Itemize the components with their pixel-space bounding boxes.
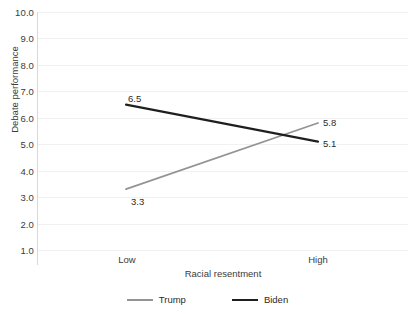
legend-item-biden[interactable]: Biden [232, 294, 288, 305]
data-label-biden-high: 5.1 [323, 138, 336, 149]
legend-swatch-trump-icon [127, 299, 153, 301]
series-line-trump [126, 123, 318, 189]
x-tick-label-high: High [283, 254, 353, 265]
legend-label-biden: Biden [264, 294, 288, 305]
series-line-biden [126, 105, 318, 142]
legend-label-trump: Trump [159, 294, 186, 305]
x-axis-title: Racial resentment [38, 268, 408, 279]
legend: Trump Biden [0, 294, 415, 305]
data-label-trump-high: 5.8 [323, 117, 336, 128]
data-label-trump-low: 3.3 [131, 196, 144, 207]
legend-item-trump[interactable]: Trump [127, 294, 186, 305]
series-lines [0, 0, 415, 314]
x-tick-label-low: Low [92, 254, 162, 265]
line-chart: 10.0 9.0 8.0 7.0 6.0 5.0 4.0 3.0 2.0 1.0… [0, 0, 415, 314]
legend-swatch-biden-icon [232, 299, 258, 301]
data-label-biden-low: 6.5 [128, 93, 141, 104]
